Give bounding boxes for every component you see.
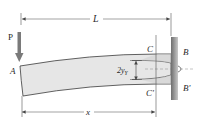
point-c-prime-label: C' xyxy=(146,88,155,98)
beam-diagram: L P 2yY A C B C' B' x xyxy=(0,0,200,123)
point-b-prime-label: B' xyxy=(183,83,191,93)
fixed-wall xyxy=(171,37,178,100)
load-arrow-icon xyxy=(15,32,24,62)
point-c-label: C xyxy=(147,44,154,54)
load-label: P xyxy=(8,32,13,42)
length-label: L xyxy=(92,13,99,24)
length-dimension: L xyxy=(21,13,171,36)
point-a-label: A xyxy=(9,66,16,76)
point-b-label: B xyxy=(183,47,189,57)
position-label: x xyxy=(85,107,90,117)
position-dimension: x xyxy=(22,107,155,117)
